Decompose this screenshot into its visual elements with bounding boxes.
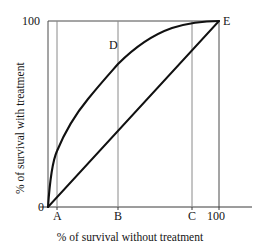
x-axis-title: % of survival without treatment xyxy=(0,231,260,243)
y-tick-label-0: 0 xyxy=(38,201,44,213)
point-label-e: E xyxy=(223,15,230,27)
x-tick-label-b: B xyxy=(114,210,122,222)
x-tick-label-100: 100 xyxy=(207,210,225,222)
x-tick-label-a: A xyxy=(53,210,62,222)
point-label-d: D xyxy=(109,39,118,51)
y-axis-title: % of survival with treatment xyxy=(14,62,26,194)
survival-benefit-chart: 100 0 A B C 100 D E % of survival withou… xyxy=(0,0,260,252)
y-tick-label-100: 100 xyxy=(22,15,40,27)
x-tick-label-c: C xyxy=(188,210,196,222)
